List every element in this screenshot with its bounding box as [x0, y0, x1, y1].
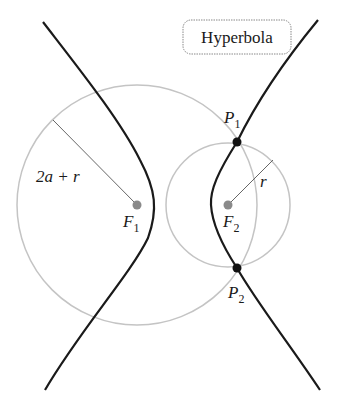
point1-label: P1 [223, 108, 240, 131]
focus2-label: F2 [222, 212, 239, 235]
point-p2-dot [233, 264, 242, 273]
focus2-dot [224, 201, 233, 210]
right-radius-label: r [260, 172, 267, 191]
hyperbola-diagram: Hyperbola 2a + r r F1 F2 P1 P2 [0, 0, 337, 405]
left-radius-label: 2a + r [36, 167, 80, 186]
point-p1-dot [233, 138, 242, 147]
title-label: Hyperbola [201, 28, 273, 47]
focus1-dot [133, 201, 142, 210]
focus1-label: F1 [122, 212, 139, 235]
point2-label: P2 [227, 283, 244, 306]
